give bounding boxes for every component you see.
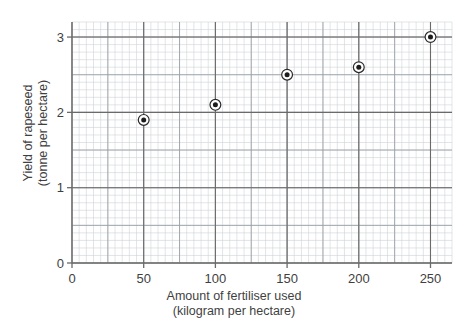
data-point-3: [356, 65, 361, 70]
data-point-1: [213, 102, 218, 107]
x-axis-title-line2: (kilogram per hectare): [0, 304, 468, 319]
scatter-chart-figure: Yield of rapeseed (tonne per hectare) 01…: [0, 0, 468, 330]
data-point-4: [428, 35, 433, 40]
x-axis-title-line1: Amount of fertiliser used: [0, 289, 468, 304]
x-axis-title: Amount of fertiliser used (kilogram per …: [0, 289, 468, 319]
data-point-0: [141, 117, 146, 122]
data-point-2: [285, 72, 290, 77]
plot-area: [0, 0, 468, 330]
